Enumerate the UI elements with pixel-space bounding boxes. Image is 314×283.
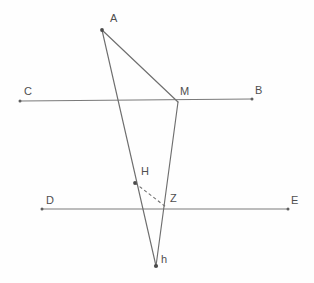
point-label-Z: Z [170,193,177,204]
point-dot-A [100,28,104,32]
point-label-E: E [291,195,298,206]
point-label-D: D [46,195,54,206]
point-label-A: A [110,13,117,24]
point-label-C: C [24,86,32,97]
segment-AM [102,30,178,102]
point-label-M: M [180,86,189,97]
parallel-line-CB [20,99,252,101]
point-dot-B [251,98,254,101]
point-dot-C [19,100,22,103]
point-dot-H [133,181,137,185]
point-dot-E [287,208,290,211]
point-label-h: h [161,254,167,265]
segment-M-to-h [156,102,178,266]
point-label-H: H [141,166,149,177]
point-dot-h [154,264,158,268]
point-label-B: B [255,85,262,96]
segment-A-to-h [102,30,156,266]
geometry-diagram: A B C D E M H Z h [0,0,314,283]
diagram-canvas [0,0,314,283]
point-dot-D [41,208,44,211]
